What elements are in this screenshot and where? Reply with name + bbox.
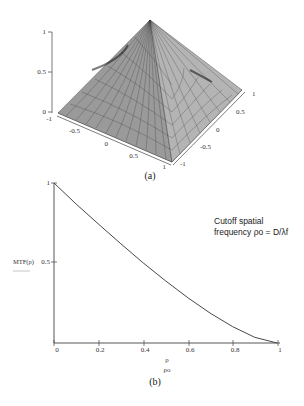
- x-tick-0.5: 0.5: [129, 152, 138, 160]
- x-tick-0: 0: [55, 346, 59, 354]
- mtf-curve: [54, 183, 277, 343]
- annotation-line2: frequency ρo = D/λf: [214, 227, 289, 237]
- x-label-numerator: ρ: [165, 356, 169, 364]
- surface-plot: 1 0.5 0: [37, 20, 256, 182]
- x-tick-1: 1: [278, 346, 282, 354]
- y-tick--1: -1: [180, 160, 186, 168]
- x-tick-0: 0: [105, 140, 109, 148]
- y-tick--0.5: -0.5: [200, 143, 212, 151]
- z-tick-0.5: 0.5: [37, 68, 46, 76]
- figure-canvas: 1 0.5 0: [0, 0, 304, 406]
- y-tick-0.5: 0.5: [41, 258, 50, 266]
- x-tick-0.4: 0.4: [141, 346, 150, 354]
- x-label-denominator: ρo: [164, 366, 171, 374]
- caption-b: (b): [149, 376, 161, 388]
- z-tick-1: 1: [43, 28, 47, 36]
- x-tick--1: -1: [46, 115, 52, 123]
- y-tick-1: 1: [47, 179, 51, 187]
- y-axis-label: MTF(ρ): [13, 258, 34, 266]
- y-tick-1: 1: [252, 90, 256, 98]
- x-tick-0.2: 0.2: [96, 346, 105, 354]
- x-tick-1: 1: [163, 163, 167, 171]
- x-tick--0.5: -0.5: [69, 127, 81, 135]
- caption-a: (a): [144, 170, 155, 182]
- mtf-chart: 1 0.5 MTF(ρ) 0 0.2 0.4 0.6 0.8 1 Cutoff …: [13, 179, 289, 388]
- x-tick-0.6: 0.6: [186, 346, 195, 354]
- x-tick-0.8: 0.8: [231, 346, 240, 354]
- y-tick-0: 0: [216, 126, 220, 134]
- annotation-line1: Cutoff spatial: [214, 216, 264, 226]
- y-tick-0.5: 0.5: [236, 108, 245, 116]
